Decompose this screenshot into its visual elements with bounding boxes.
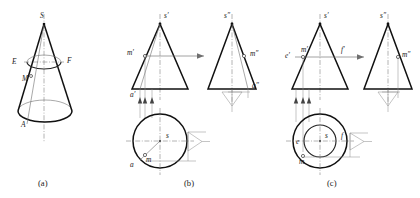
caption-a: (a) <box>38 178 48 188</box>
label-top-f-c: f <box>341 131 344 140</box>
label-point-M: M <box>21 74 29 83</box>
panel-b-labels: s′ m′ a′ s″ m″ a″ s a m <box>127 11 260 169</box>
label-top-m-c: m <box>299 157 305 166</box>
label-front-s-prime-c: s′ <box>324 11 329 20</box>
up-arrow-m-b <box>143 97 147 104</box>
projection-arrow-head-c <box>357 54 364 60</box>
up-arrow-aux-b <box>150 97 154 104</box>
figure-root: S E F M A <box>0 0 420 198</box>
label-point-E: E <box>11 57 17 66</box>
caption-group: (a) (b) (c) <box>38 178 337 188</box>
width-symbol-triangle-c <box>350 133 364 150</box>
label-side-m-dprime-b: m″ <box>250 49 259 58</box>
label-front-m-prime-c: m′ <box>301 45 308 54</box>
up-arrow-a-b <box>138 97 142 104</box>
label-side-m-dprime-c: m″ <box>402 50 411 59</box>
label-side-s-dprime-b: s″ <box>224 11 231 20</box>
top-center-dot-b <box>159 140 161 142</box>
caption-b: (b) <box>184 178 194 188</box>
label-front-a-prime-b: a′ <box>130 90 136 99</box>
up-arrow-aux-c <box>307 97 311 104</box>
label-side-a-dprime-b: a″ <box>252 81 260 90</box>
width-symbol-triangle-b <box>188 132 202 151</box>
top-center-dot-c <box>319 140 321 142</box>
label-front-e-prime-c: e′ <box>285 51 290 60</box>
label-point-A: A <box>20 120 26 129</box>
cone-base-front-arc <box>18 111 72 122</box>
label-front-f-prime-c: f′ <box>341 45 345 54</box>
caption-c: (c) <box>327 178 337 188</box>
cone-right-generatrix <box>44 24 72 111</box>
label-top-a-b: a <box>130 160 134 169</box>
label-side-s-dprime-c: s″ <box>380 11 387 20</box>
label-top-m-b: m <box>146 155 152 164</box>
panel-a-labels: S E F M A <box>11 11 72 129</box>
label-point-F: F <box>66 56 72 65</box>
projection-arrow-head-b <box>197 53 204 59</box>
panel-b-group <box>126 14 256 175</box>
up-arrow-e-c <box>294 97 298 104</box>
cone-base-rear-arc <box>18 100 72 111</box>
label-top-s-b: s <box>166 131 169 140</box>
up-arrow-m-c <box>301 97 305 104</box>
label-front-m-prime-b: m′ <box>127 48 134 57</box>
front-apex-dot-c <box>319 23 322 26</box>
apex-dot-a <box>43 23 46 26</box>
technical-drawing-canvas: S E F M A <box>0 0 420 198</box>
side-point-m-b <box>242 54 245 57</box>
label-apex-S: S <box>40 11 44 20</box>
side-apex-dot-c <box>387 23 390 26</box>
panel-c-group <box>286 14 412 175</box>
cone-left-generatrix <box>18 24 44 111</box>
point-m-marker-a <box>30 75 33 78</box>
label-top-s-c: s <box>325 131 328 140</box>
label-front-s-prime-b: s′ <box>164 11 169 20</box>
front-generatrix-sa-b <box>140 24 160 89</box>
label-top-e-c: e <box>296 137 300 146</box>
